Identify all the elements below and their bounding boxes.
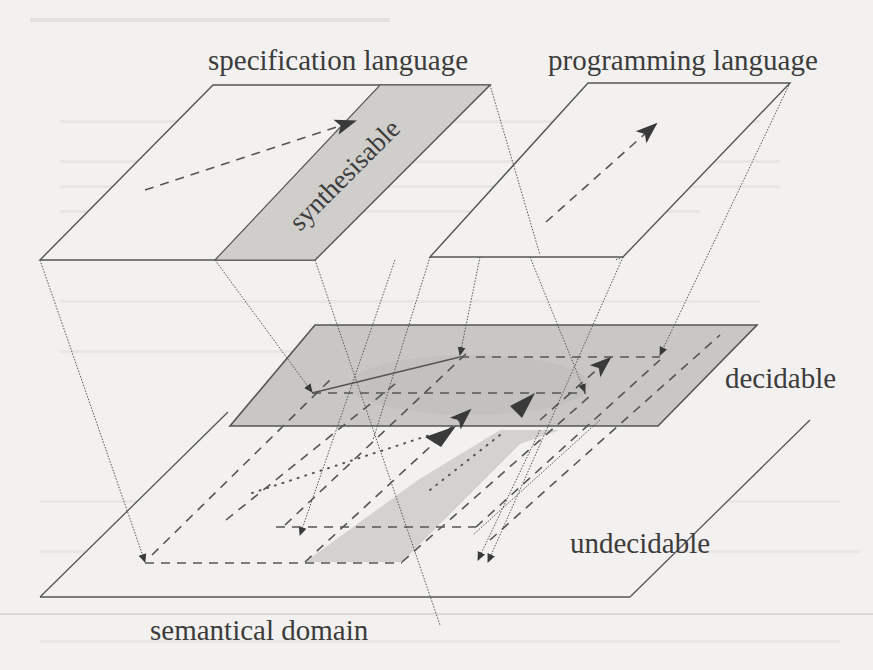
programming-language-label: programming language	[548, 44, 818, 76]
specification-language-plane	[40, 85, 490, 260]
decidable-plane	[230, 325, 757, 426]
undecidable-label: undecidable	[570, 527, 710, 559]
programming-language-plane	[430, 83, 790, 257]
specification-language-label: specification language	[208, 44, 468, 76]
semantical-domain-plane	[40, 412, 810, 597]
semantical-domain-label: semantical domain	[150, 614, 369, 646]
diagram-canvas: specification language programming langu…	[0, 0, 873, 670]
decidable-label: decidable	[725, 362, 836, 394]
